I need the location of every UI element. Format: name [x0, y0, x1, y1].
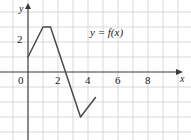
function-graph-figure: 2 0 2 4 6 8 y x y = f(x) [0, 0, 191, 140]
x-tick-label-8: 8 [145, 75, 151, 86]
vertical-gridlines [13, 0, 178, 140]
function-label: y = f(x) [90, 27, 123, 38]
x-tick-label-0: 0 [18, 75, 24, 86]
y-tick-label-2: 2 [17, 34, 23, 45]
x-axis-name: x [180, 74, 184, 84]
x-tick-label-6: 6 [115, 75, 121, 86]
x-tick-label-2: 2 [55, 75, 61, 86]
graph-canvas [0, 0, 191, 140]
y-axis-name: y [19, 4, 23, 14]
x-tick-label-4: 4 [85, 75, 91, 86]
